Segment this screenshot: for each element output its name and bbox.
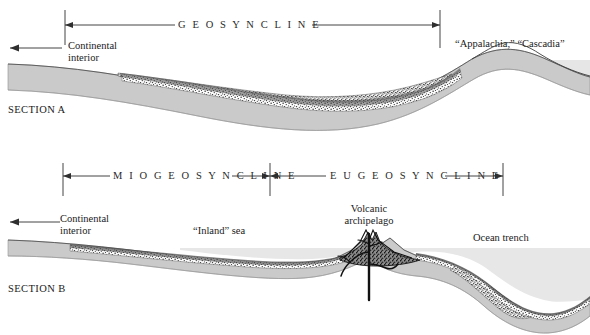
appalachia-cascadia-label: “Appalachia,” “Cascadia” — [455, 38, 565, 50]
section-b-continental-arrow — [10, 219, 60, 226]
ocean-trench-label: Ocean trench — [473, 232, 529, 244]
section-a-title: SECTION A — [8, 104, 66, 116]
geosyncline-figure: G E O S Y N C L I N E Continental interi… — [0, 0, 590, 335]
volcanic-archipelago-line2: archipelago — [330, 215, 408, 227]
miogeosyncline-span-label: M I O G E O S Y N C L I N E — [113, 170, 297, 182]
volcanic-archipelago-line1: Volcanic — [330, 203, 408, 215]
geosyncline-span-label: G E O S Y N C L I N E — [178, 19, 321, 31]
eugeosyncline-span-label: E U G E O S Y N C L I N E — [330, 170, 500, 182]
inland-sea-label: “Inland” sea — [193, 225, 245, 237]
section-a-continental-arrow — [10, 45, 62, 52]
volcanic-archipelago-label: Volcanic archipelago — [330, 203, 408, 227]
section-a-continental-interior-line2: interior — [68, 52, 117, 64]
section-a-continental-interior-label: Continental interior — [68, 40, 117, 64]
section-b-continental-interior-label: Continental interior — [60, 213, 109, 237]
section-b-geology — [8, 230, 590, 333]
section-b-continental-interior-line1: Continental — [60, 213, 109, 225]
section-a-continental-interior-line1: Continental — [68, 40, 117, 52]
section-b-title: SECTION B — [8, 283, 66, 295]
section-b-continental-interior-line2: interior — [60, 225, 109, 237]
